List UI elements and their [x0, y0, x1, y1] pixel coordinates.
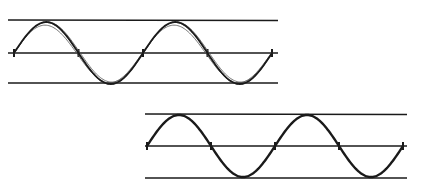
top-guide-line [145, 114, 407, 115]
top-sine-panel [8, 20, 278, 85]
top-guide-line [8, 20, 278, 21]
sine-wave-diagram [0, 0, 427, 182]
bottom-sine-panel [145, 114, 407, 178]
